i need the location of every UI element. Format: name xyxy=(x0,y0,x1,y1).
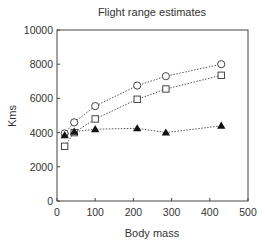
circle-marker-icon xyxy=(92,102,99,109)
x-tick-label: 300 xyxy=(163,206,181,218)
square-marker-icon xyxy=(92,116,98,122)
series-filled-triangle xyxy=(60,122,225,139)
circle-marker-icon xyxy=(71,119,78,126)
x-tick-label: 500 xyxy=(239,206,257,218)
x-axis-label: Body mass xyxy=(125,227,180,239)
data-series xyxy=(60,61,225,150)
chart-title: Flight range estimates xyxy=(98,6,207,18)
x-tick-label: 200 xyxy=(125,206,143,218)
triangle-marker-icon xyxy=(133,124,141,131)
y-tick-label: 6000 xyxy=(30,92,54,104)
x-tick-label: 400 xyxy=(201,206,219,218)
square-marker-icon xyxy=(61,143,67,149)
series-line xyxy=(65,75,222,146)
plot-frame xyxy=(57,30,248,201)
series-line xyxy=(65,126,222,135)
circle-marker-icon xyxy=(218,61,225,68)
x-tick-label: 100 xyxy=(86,206,104,218)
y-tick-label: 4000 xyxy=(30,127,54,139)
y-tick-label: 2000 xyxy=(30,161,54,173)
square-marker-icon xyxy=(134,96,140,102)
y-axis: 0200040006000800010000 xyxy=(24,24,60,207)
y-tick-label: 10000 xyxy=(24,24,53,36)
y-axis-label: Kms xyxy=(6,105,18,128)
triangle-marker-icon xyxy=(217,122,225,129)
flight-range-chart: Flight range estimates 02000400060008000… xyxy=(0,0,265,246)
y-tick-label: 0 xyxy=(47,195,53,207)
square-marker-icon xyxy=(163,86,169,92)
y-tick-label: 8000 xyxy=(30,58,54,70)
x-tick-label: 0 xyxy=(54,206,60,218)
circle-marker-icon xyxy=(134,82,141,89)
triangle-marker-icon xyxy=(91,125,99,132)
square-marker-icon xyxy=(218,72,224,78)
circle-marker-icon xyxy=(162,73,169,80)
